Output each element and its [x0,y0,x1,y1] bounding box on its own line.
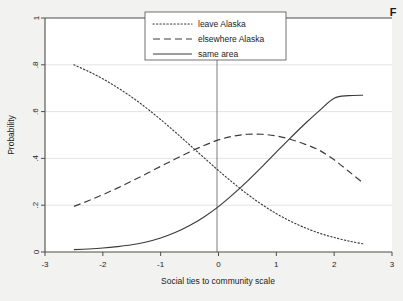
y-tick-label-.4: .4 [32,155,41,162]
x-tick-label--2: -2 [99,260,107,269]
y-tick-label-.2: .2 [32,201,41,208]
caption-fragment: F [390,6,397,18]
legend: leave Alaska elsewhere Alaska same area [145,12,286,60]
y-tick-label-.8: .8 [32,61,41,68]
y-axis-title: Probability [6,114,16,154]
x-tick-label-1: 1 [274,260,279,269]
figure-container: -3-2-10123 0.2.4.6.81 Social ties to com… [0,0,403,301]
legend-label-leave-alaska: leave Alaska [198,19,246,29]
y-tick-label-.6: .6 [32,108,41,115]
x-axis-title: Social ties to community scale [161,276,275,286]
x-tick-label--3: -3 [41,260,49,269]
legend-label-elsewhere-alaska: elsewhere Alaska [198,34,264,44]
x-tick-label-3: 3 [390,260,395,269]
legend-label-same-area: same area [198,49,238,59]
x-tick-label-2: 2 [332,260,337,269]
y-tick-label-0: 0 [32,249,41,254]
x-tick-label--1: -1 [157,260,165,269]
x-tick-label-0: 0 [216,260,221,269]
probability-line-chart: -3-2-10123 0.2.4.6.81 Social ties to com… [0,0,403,301]
y-tick-label-1: 1 [32,15,41,20]
